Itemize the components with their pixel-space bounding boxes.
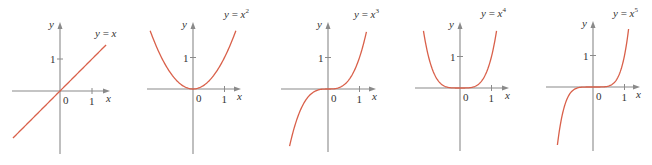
x-tick-label-0: 0	[331, 92, 337, 104]
y-axis-arrow-icon	[326, 22, 331, 29]
x-tick-label-1: 1	[622, 91, 628, 103]
x-axis-label: x	[105, 92, 111, 104]
function-label: y = x3	[353, 7, 380, 20]
x-tick-label-0: 0	[596, 90, 602, 102]
x-tick-label-0: 0	[463, 91, 469, 103]
y-axis-label: y	[581, 17, 587, 29]
y-axis-label: y	[48, 18, 54, 30]
y-axis-label: y	[181, 18, 187, 30]
chart-panel-4: 011xyy = x4	[415, 6, 510, 151]
y-tick-label-1: 1	[318, 52, 324, 64]
y-axis-arrow-icon	[191, 22, 196, 29]
chart-panel-1: 011xyy = x	[12, 18, 117, 154]
power-functions-figure: 011xyy = x011xyy = x2011xyy = x3011xyy =…	[0, 0, 652, 165]
x-axis-label: x	[236, 90, 242, 102]
y-tick-label-1: 1	[450, 51, 456, 63]
y-axis-label: y	[316, 18, 322, 30]
chart-panel-5: 011xyy = x5	[546, 6, 641, 151]
y-axis-arrow-icon	[58, 22, 63, 29]
chart-panel-3: 011xyy = x3	[281, 7, 380, 152]
x-axis-label: x	[635, 88, 641, 100]
y-axis-arrow-icon	[458, 22, 463, 29]
chart-panel-2: 011xyy = x2	[147, 7, 250, 154]
x-tick-label-1: 1	[489, 92, 495, 104]
x-axis-label: x	[504, 89, 510, 101]
x-axis-label: x	[371, 90, 377, 102]
x-tick-label-0: 0	[63, 94, 69, 106]
x-tick-label-0: 0	[196, 92, 202, 104]
x-tick-label-1: 1	[222, 93, 228, 105]
function-label: y = x4	[480, 6, 507, 19]
y-tick-label-1: 1	[183, 52, 189, 64]
x-tick-label-1: 1	[89, 95, 95, 107]
x-tick-label-1: 1	[357, 93, 363, 105]
function-label: y = x2	[223, 7, 250, 20]
y-tick-label-1: 1	[583, 50, 589, 62]
y-axis-label: y	[448, 18, 454, 30]
function-label: y = x5	[612, 6, 639, 19]
function-label: y = x	[94, 27, 117, 39]
y-tick-label-1: 1	[50, 53, 56, 65]
y-axis-arrow-icon	[591, 21, 596, 28]
